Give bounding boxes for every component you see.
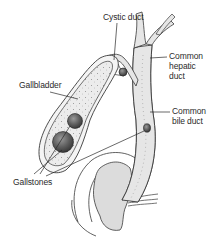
bile-duct-stone	[144, 124, 151, 132]
label-common-hepatic-duct: Common hepatic duct	[169, 51, 203, 81]
label-common-bile-duct: Common bile duct	[172, 106, 206, 126]
leader-common-hepatic-duct	[150, 57, 167, 58]
gallbladder	[39, 55, 118, 173]
label-gallstones: Gallstones	[13, 177, 52, 187]
cystic-duct-stone	[119, 68, 127, 76]
gallbladder-diagram: Cystic duct Gallbladder Common hepatic d…	[0, 0, 217, 238]
label-common-bile-duct-line2: bile duct	[172, 116, 206, 126]
label-common-hepatic-duct-line1: Common	[169, 51, 203, 61]
label-common-bile-duct-line1: Common	[172, 106, 206, 116]
label-gallbladder: Gallbladder	[19, 80, 61, 90]
label-common-hepatic-duct-line3: duct	[169, 71, 203, 81]
label-cystic-duct: Cystic duct	[103, 12, 143, 22]
label-common-hepatic-duct-line2: hepatic	[169, 61, 203, 71]
